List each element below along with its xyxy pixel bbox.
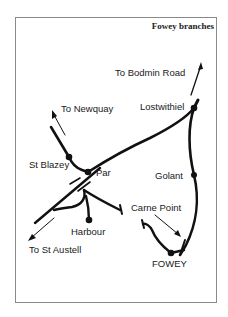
line-to-bodmin-road xyxy=(191,68,200,95)
line-harbour-east xyxy=(84,190,120,210)
station-dot-par xyxy=(85,169,92,176)
label-to-newquay: To Newquay xyxy=(61,104,113,114)
line-stblazey-par xyxy=(69,157,88,172)
label-par: Par xyxy=(96,168,111,178)
line-to-newquay xyxy=(51,127,69,157)
newquay-arrowhead xyxy=(52,110,57,119)
label-golant: Golant xyxy=(155,171,183,181)
par-crossing-mark-1 xyxy=(70,178,80,184)
bodmin-road-arrowhead xyxy=(198,62,203,70)
line-carne-point xyxy=(143,224,171,253)
label-st-blazey: St Blazey xyxy=(29,160,69,170)
line-to-harbour xyxy=(86,196,89,220)
label-to-st-austell: To St Austell xyxy=(29,245,81,255)
newquay-arrow-line xyxy=(54,115,65,135)
station-dot-harbour xyxy=(86,217,93,224)
label-harbour: Harbour xyxy=(71,227,105,237)
carne-point-bufferstop xyxy=(142,220,144,228)
carne-point-pointer xyxy=(155,215,178,234)
line-par-lostwithiel xyxy=(88,108,194,172)
line-lostwithiel-fowey xyxy=(180,108,197,255)
station-dot-lostwithiel xyxy=(191,105,198,112)
label-to-bodmin-road: To Bodmin Road xyxy=(115,68,185,78)
station-dot-fowey xyxy=(168,250,175,257)
harbour-bufferstop xyxy=(120,205,122,214)
station-dot-golant xyxy=(191,172,197,178)
label-lostwithiel: Lostwithiel xyxy=(140,102,184,112)
label-carne-point: Carne Point xyxy=(131,203,181,213)
line-to-st-austell xyxy=(35,168,100,223)
label-fowey: FOWEY xyxy=(152,259,187,269)
st-austell-arrow-line xyxy=(31,218,54,238)
